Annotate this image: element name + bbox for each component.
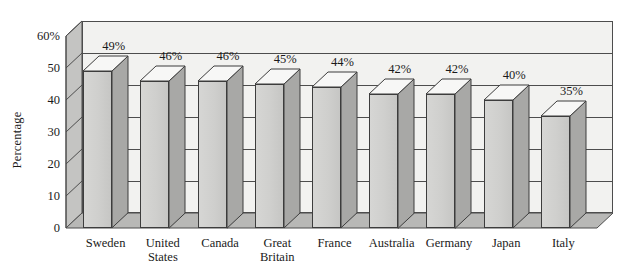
bar-3 [198,81,227,228]
bar-side-face [341,72,357,228]
bar-3d-faces [484,85,531,230]
bar-3d-faces [369,79,416,230]
bar-side-face [398,79,414,228]
bar-3d-faces [83,56,130,230]
bar-value-label-3: 46% [200,49,257,64]
bar-side-face [570,101,586,228]
bar-side-face [284,69,300,228]
bar-side-face [513,85,529,228]
bar-side-face [112,56,128,228]
bar-4 [255,84,284,228]
bar-8 [484,100,513,228]
bar-3d-faces [198,66,245,230]
bar-3d-faces [426,79,473,230]
bar-value-label-8: 40% [486,68,543,83]
bar-3d-faces [541,101,588,230]
bar-value-label-9: 35% [543,84,600,99]
bar-value-label-4: 45% [257,52,314,67]
bar-2 [140,81,169,228]
bar-side-face [455,79,471,228]
bar-5 [312,87,341,228]
bar-side-face [227,66,243,228]
bar-3d-faces [255,69,302,230]
bar-value-label-1: 49% [85,39,142,54]
bar-9 [541,116,570,228]
bar-6 [369,94,398,228]
bar-chart: Percentage 0102030405060% 49%Sweden46%Un… [0,0,626,276]
bar-value-label-2: 46% [142,49,199,64]
bar-7 [426,94,455,228]
bar-value-label-5: 44% [314,55,371,70]
bar-side-face [169,66,185,228]
bar-3d-faces [312,72,359,230]
bar-1 [83,71,112,228]
bars-layer: 49%Sweden46%United States46%Canada45%Gre… [0,0,626,276]
x-axis-label-9: Italy [524,236,603,250]
bar-3d-faces [140,66,187,230]
bar-value-label-6: 42% [371,62,428,77]
bar-value-label-7: 42% [428,62,485,77]
